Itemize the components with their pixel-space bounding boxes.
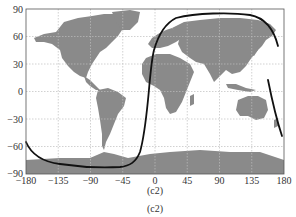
axis-sublabel: (c2) bbox=[147, 185, 163, 197]
x-tick: 90 bbox=[215, 175, 225, 186]
track-segment-2 bbox=[268, 80, 282, 136]
x-tick: −135 bbox=[48, 175, 69, 186]
y-tick: −30 bbox=[7, 114, 23, 125]
x-tick: 45 bbox=[182, 175, 192, 186]
y-tick: 0 bbox=[18, 86, 23, 97]
y-tick: −60 bbox=[7, 141, 23, 152]
y-tick: 90 bbox=[13, 4, 23, 15]
land-madagascar bbox=[190, 94, 194, 106]
x-tick: 135 bbox=[244, 175, 259, 186]
x-tick: −90 bbox=[83, 175, 99, 186]
x-tick: 180 bbox=[277, 175, 292, 186]
y-tick: 60 bbox=[13, 31, 23, 42]
land-north-america bbox=[34, 14, 124, 78]
x-tick: −180 bbox=[16, 175, 37, 186]
x-tick: −45 bbox=[115, 175, 131, 186]
land-central-america bbox=[84, 76, 100, 90]
y-axis-ticks: 90 60 30 0 −30 −60 −90 bbox=[7, 4, 23, 180]
map-chart: 90 60 30 0 −30 −60 −90 −180 −135 −90 −45… bbox=[0, 0, 296, 217]
figure-caption: (c2) bbox=[147, 203, 163, 215]
y-tick: 30 bbox=[13, 59, 23, 70]
land-masses bbox=[26, 10, 284, 174]
